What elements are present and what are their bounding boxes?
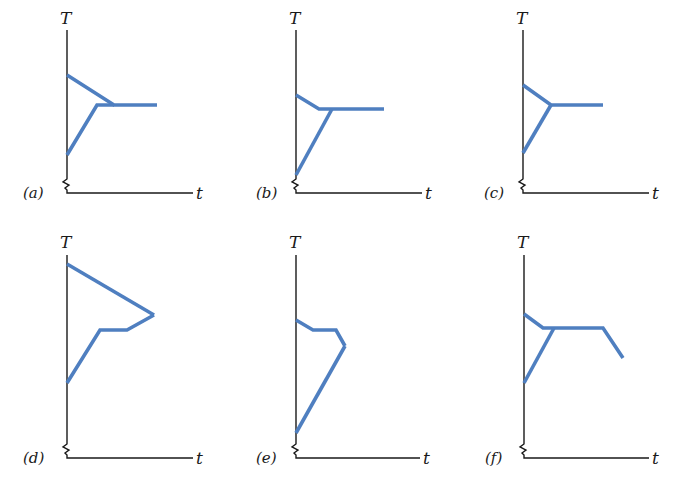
- y-axis-label: T: [289, 232, 302, 252]
- x-axis-label: t: [652, 448, 659, 468]
- hot-stream-curve: [296, 320, 345, 346]
- panel-d: T t (d): [23, 232, 203, 468]
- panel-label: (d): [23, 449, 44, 467]
- hot-stream-curve: [67, 264, 154, 315]
- y-axis-label: T: [60, 8, 73, 28]
- cold-stream-curve: [67, 315, 154, 383]
- cold-stream-curve: [523, 105, 551, 153]
- hot-stream-curve: [67, 75, 157, 105]
- hot-stream-curve: [296, 95, 384, 109]
- x-axis-label: t: [196, 448, 203, 468]
- cold-stream-curve: [296, 346, 345, 433]
- x-axis-label: t: [652, 183, 659, 203]
- y-axis: [292, 255, 420, 458]
- y-axis: [519, 30, 649, 193]
- y-axis-label: T: [289, 8, 302, 28]
- panel-a: T t (a): [23, 8, 203, 203]
- panel-e: T t (e): [256, 232, 430, 468]
- y-axis-label: T: [60, 232, 73, 252]
- panel-label: (c): [484, 184, 504, 202]
- y-axis: [292, 30, 422, 193]
- hot-stream-curve: [523, 85, 603, 105]
- hot-stream-curve: [524, 314, 623, 358]
- panel-label: (a): [23, 184, 44, 202]
- cold-stream-curve: [524, 328, 554, 383]
- x-axis-label: t: [425, 183, 432, 203]
- panel-label: (b): [256, 184, 277, 202]
- y-axis-label: T: [516, 8, 529, 28]
- y-axis: [63, 30, 193, 193]
- heat-exchanger-temperature-profiles: T t (a) T t (b) T t (c) T t (d) T t (e): [0, 0, 680, 481]
- y-axis-label: T: [517, 232, 530, 252]
- panel-label: (e): [256, 449, 277, 467]
- panel-f: T t (f): [485, 232, 659, 468]
- panel-c: T t (c): [484, 8, 659, 203]
- panel-label: (f): [485, 449, 502, 467]
- cold-stream-curve: [296, 109, 332, 175]
- cold-stream-curve: [67, 105, 114, 155]
- x-axis-label: t: [423, 448, 430, 468]
- x-axis-label: t: [196, 183, 203, 203]
- panel-b: T t (b): [256, 8, 432, 203]
